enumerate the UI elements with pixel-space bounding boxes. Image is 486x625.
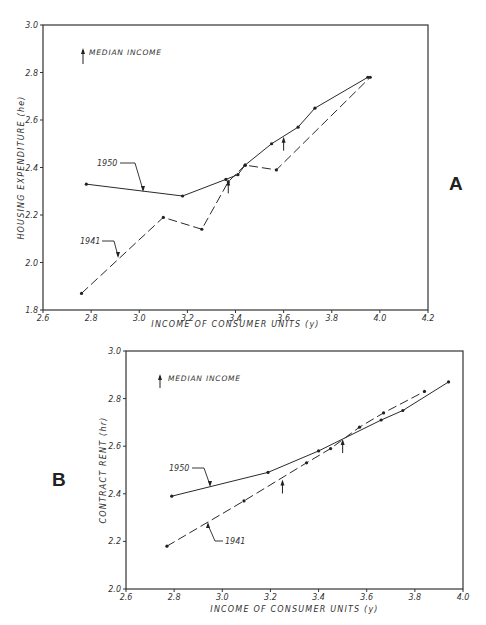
median-arrows-a	[226, 137, 285, 194]
x-tick-label: 2.8	[168, 593, 181, 602]
label-1950-b: 1950	[169, 464, 212, 487]
series-group-a	[80, 76, 372, 295]
data-point	[236, 173, 239, 176]
data-point	[244, 164, 247, 167]
y-axis-ticks-a: 1.82.02.22.42.62.83.0	[25, 21, 43, 315]
data-point	[380, 418, 383, 421]
y-tick-label: 2.4	[25, 164, 38, 173]
data-point	[369, 76, 372, 79]
series-label-1950: 1950	[169, 464, 189, 473]
x-tick-label: 3.8	[408, 593, 421, 602]
y-tick-label: 3.0	[108, 347, 121, 356]
x-tick-label: 3.2	[264, 593, 277, 602]
data-point	[313, 107, 316, 110]
data-point	[382, 411, 385, 414]
x-tick-label: 3.6	[360, 593, 373, 602]
data-point	[85, 183, 88, 186]
series-line-1950	[86, 77, 368, 196]
series-label-1950: 1950	[97, 159, 117, 168]
up-arrow-icon	[81, 48, 85, 64]
chart-panel-a: 1.82.02.22.42.62.83.0 2.62.83.03.23.43.6…	[17, 21, 463, 329]
y-tick-label: 2.8	[25, 69, 38, 78]
data-point	[165, 545, 168, 548]
x-tick-label: 3.0	[133, 314, 146, 323]
y-tick-label: 2.4	[108, 490, 121, 499]
data-point	[275, 168, 278, 171]
series-line-1941	[167, 391, 425, 546]
x-tick-label: 2.8	[85, 314, 98, 323]
panel-letter-a: A	[449, 173, 463, 194]
data-point	[401, 409, 404, 412]
y-tick-label: 2.2	[25, 211, 38, 220]
data-point	[447, 380, 450, 383]
data-point	[80, 292, 83, 295]
y-axis-label-a: HOUSING EXPENDITURE (he)	[17, 95, 26, 239]
y-tick-label: 2.6	[25, 116, 38, 125]
x-tick-label: 4.0	[457, 593, 470, 602]
legend-text-b: MEDIAN INCOME	[168, 374, 241, 383]
data-point	[200, 228, 203, 231]
y-tick-label: 2.8	[108, 395, 121, 404]
x-tick-label: 2.6	[120, 593, 133, 602]
chart-panel-b: 2.02.22.42.62.83.0 2.62.83.03.23.43.63.8…	[52, 347, 469, 614]
label-1941-b: 1941	[206, 522, 245, 546]
y-tick-label: 2.2	[108, 537, 121, 546]
data-point	[270, 142, 273, 145]
legend-text-a: MEDIAN INCOME	[89, 48, 162, 57]
legend-a: MEDIAN INCOME	[81, 48, 162, 64]
data-point	[224, 178, 227, 181]
data-point	[329, 447, 332, 450]
data-point	[423, 390, 426, 393]
y-tick-label: 3.0	[25, 21, 38, 30]
x-tick-label: 3.0	[216, 593, 229, 602]
panel-letter-b: B	[52, 469, 66, 490]
series-label-1941: 1941	[225, 537, 245, 546]
up-arrow-icon	[158, 374, 162, 388]
x-tick-label: 4.0	[374, 314, 387, 323]
data-point	[162, 216, 165, 219]
data-point	[266, 471, 269, 474]
x-tick-label: 4.2	[422, 314, 435, 323]
data-point	[296, 126, 299, 129]
median-income-arrow-icon	[280, 480, 284, 494]
median-arrows-b	[280, 439, 344, 493]
x-axis-label-b: INCOME OF CONSUMER UNITS (y)	[210, 605, 378, 614]
y-axis-label-b: CONTRACT RENT (hr)	[99, 416, 108, 523]
series-line-1941	[82, 77, 371, 293]
x-tick-label: 3.4	[312, 593, 325, 602]
x-tick-label: 3.8	[325, 314, 338, 323]
legend-b: MEDIAN INCOME	[158, 374, 241, 388]
data-point	[358, 426, 361, 429]
y-tick-label: 2.6	[108, 442, 121, 451]
series-line-1950	[172, 382, 449, 496]
x-tick-label: 2.6	[37, 314, 50, 323]
median-income-arrow-icon	[282, 137, 286, 151]
x-axis-label-a: INCOME OF CONSUMER UNITS (y)	[151, 320, 319, 329]
data-point	[170, 495, 173, 498]
data-point	[242, 499, 245, 502]
data-point	[181, 194, 184, 197]
label-1950-a: 1950	[97, 159, 145, 192]
data-point	[317, 449, 320, 452]
y-tick-label: 2.0	[25, 259, 38, 268]
series-label-1941: 1941	[80, 237, 100, 246]
label-1941-a: 1941	[80, 237, 120, 258]
figure: 1.82.02.22.42.62.83.0 2.62.83.03.23.43.6…	[0, 0, 486, 625]
data-point	[305, 461, 308, 464]
x-axis-ticks-b: 2.62.83.03.23.43.63.84.0	[120, 589, 470, 602]
y-axis-ticks-b: 2.02.22.42.62.83.0	[108, 347, 126, 594]
